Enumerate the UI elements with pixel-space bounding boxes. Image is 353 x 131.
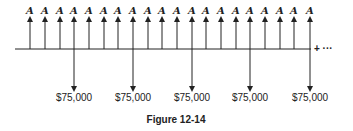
annuity-label: A (245, 5, 254, 16)
annuity-label: A (84, 5, 93, 16)
cash-flow-diagram: AAAAAAAAAAAAAAAAAAAA $75,000$75,000$75,0… (0, 0, 353, 131)
withdrawal-amount: $75,000 (174, 92, 211, 103)
annuity-label: A (216, 5, 225, 16)
annuity-label: A (40, 5, 49, 16)
withdrawal-amount: $75,000 (232, 92, 269, 103)
annuity-label: A (143, 5, 152, 16)
withdrawal-amount: $75,000 (115, 92, 152, 103)
annuity-label: A (305, 5, 314, 16)
annuity-label: A (69, 5, 78, 16)
withdrawal-arrows: $75,000$75,000$75,000$75,000$75,000 (56, 49, 329, 103)
annuity-arrows: AAAAAAAAAAAAAAAAAAAA (25, 5, 314, 49)
annuity-label: A (187, 5, 196, 16)
annuity-label: A (25, 5, 34, 16)
annuity-label: A (201, 5, 210, 16)
annuity-label: A (289, 5, 298, 16)
annuity-label: A (231, 5, 240, 16)
withdrawal-amount: $75,000 (292, 92, 329, 103)
annuity-label: A (157, 5, 166, 16)
annuity-label: A (99, 5, 108, 16)
annuity-label: A (128, 5, 137, 16)
continuation-marker: + ··· (314, 43, 333, 54)
annuity-label: A (275, 5, 284, 16)
annuity-label: A (55, 5, 64, 16)
annuity-label: A (113, 5, 122, 16)
figure-caption: Figure 12-14 (147, 114, 206, 125)
annuity-label: A (260, 5, 269, 16)
annuity-label: A (172, 5, 181, 16)
withdrawal-amount: $75,000 (56, 92, 93, 103)
